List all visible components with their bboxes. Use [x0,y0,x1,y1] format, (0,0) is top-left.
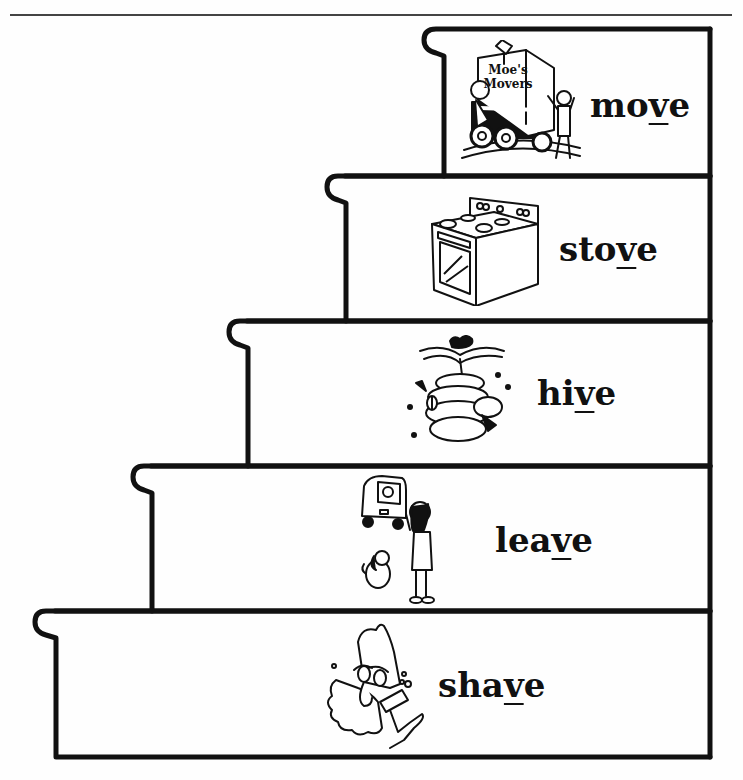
worksheet-page: Moe's Movers move [0,0,743,780]
word-suffix: e [594,373,616,413]
word-prefix: sto [559,229,617,269]
man-shaving-illustration [318,622,430,754]
word-highlight-letter: v [649,85,669,125]
girl-waving-car-illustration [358,474,458,606]
word-highlight-letter: v [617,229,637,269]
word-prefix: sha [438,665,504,705]
word-stove: stove [559,232,658,266]
word-move: move [590,88,690,122]
word-suffix: e [571,520,593,560]
word-highlight-letter: v [552,520,572,560]
truck-label-line1: Moe's [488,63,528,77]
word-suffix: e [636,229,658,269]
moving-truck-illustration: Moe's Movers [458,40,583,165]
word-highlight-letter: v [504,665,524,705]
stove-illustration [428,194,544,306]
word-highlight-letter: v [575,373,595,413]
beehive-illustration [402,335,522,450]
word-suffix: e [668,85,690,125]
word-hive: hive [537,376,616,410]
word-leave: leave [495,523,593,557]
word-prefix: lea [495,520,552,560]
word-prefix: hi [537,373,575,413]
truck-label-line2: Movers [484,77,533,91]
word-shave: shave [438,668,545,702]
word-prefix: mo [590,85,649,125]
word-suffix: e [524,665,546,705]
